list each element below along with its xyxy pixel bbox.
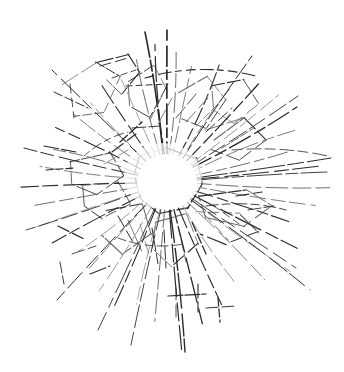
- shattered-glass-drawing: [0, 0, 344, 372]
- artboard: [0, 0, 344, 372]
- impact-void-halo: [124, 143, 202, 209]
